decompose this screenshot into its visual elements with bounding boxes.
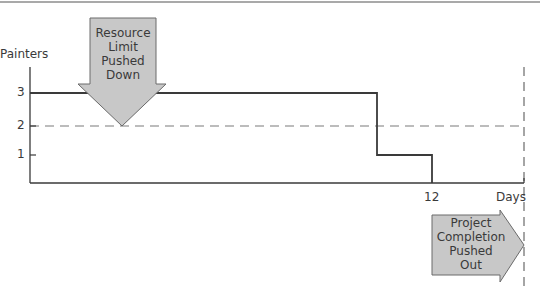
y-tick-label-2: 2: [17, 118, 25, 132]
callout-line: Completion: [432, 230, 510, 244]
callout-line: Pushed: [90, 54, 156, 68]
callout-line: Pushed: [432, 244, 510, 258]
x-axis-label: Days: [496, 190, 526, 204]
callout-line: Project: [432, 216, 510, 230]
callout-line: Resource: [90, 26, 156, 40]
y-tick-label-1: 1: [17, 147, 25, 161]
project-completion-callout: Project Completion Pushed Out: [432, 216, 510, 272]
callout-line: Down: [90, 68, 156, 82]
painters-step-line: [30, 93, 432, 183]
x-tick-label-12: 12: [424, 190, 439, 204]
callout-line: Out: [432, 258, 510, 272]
resource-limit-callout: Resource Limit Pushed Down: [90, 26, 156, 82]
y-tick-label-3: 3: [17, 85, 25, 99]
y-axis-label: Painters: [0, 47, 48, 61]
callout-line: Limit: [90, 40, 156, 54]
